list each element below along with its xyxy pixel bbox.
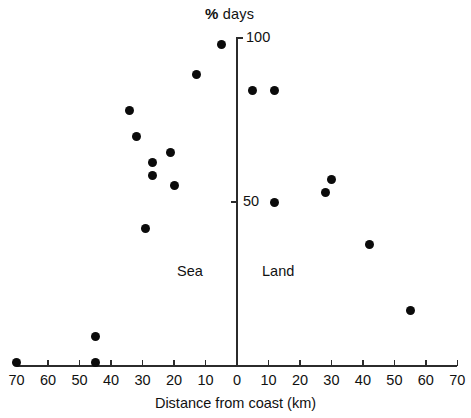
- x-tick-label: 40: [355, 372, 371, 388]
- x-tick-label: 60: [40, 372, 56, 388]
- data-point: [365, 240, 374, 249]
- data-point: [248, 86, 257, 95]
- x-tick-label: 70: [449, 372, 465, 388]
- x-tick-label: 60: [418, 372, 434, 388]
- x-tick-mark: [299, 360, 301, 366]
- data-point: [148, 171, 157, 180]
- y-tick-label-100: 100: [246, 30, 270, 45]
- x-tick-mark: [79, 360, 81, 366]
- y-tick-label-50: 50: [243, 194, 259, 209]
- scatter-chart: % days 100 50 Sea Land Distance from coa…: [0, 0, 471, 418]
- x-tick-label: 20: [166, 372, 182, 388]
- y-axis-title: % days: [205, 6, 254, 22]
- data-point: [148, 158, 157, 167]
- x-tick-label: 50: [386, 372, 402, 388]
- x-tick-label: 30: [134, 372, 150, 388]
- y-axis-title-unit: days: [223, 6, 254, 22]
- data-point: [141, 224, 150, 233]
- x-tick-label: 10: [260, 372, 276, 388]
- data-point: [327, 175, 336, 184]
- x-tick-label: 70: [9, 372, 25, 388]
- data-point: [125, 106, 134, 115]
- annotation-land: Land: [262, 264, 294, 279]
- x-tick-mark: [394, 360, 396, 366]
- data-point: [192, 70, 201, 79]
- y-tick-mark-50: [231, 201, 238, 203]
- x-tick-label: 30: [323, 372, 339, 388]
- annotation-sea: Sea: [177, 264, 203, 279]
- data-point: [270, 198, 279, 207]
- data-point: [217, 40, 226, 49]
- x-tick-mark: [425, 360, 427, 366]
- y-axis-title-percent: %: [205, 5, 219, 22]
- data-point: [321, 188, 330, 197]
- x-tick-label: 10: [197, 372, 213, 388]
- data-point: [91, 332, 100, 341]
- y-tick-mark-100: [236, 37, 243, 39]
- data-point: [406, 306, 415, 315]
- data-point: [170, 181, 179, 190]
- x-axis-title: Distance from coast (km): [0, 396, 471, 411]
- x-tick-label: 20: [292, 372, 308, 388]
- x-tick-mark: [331, 360, 333, 366]
- x-tick-mark: [110, 360, 112, 366]
- x-tick-mark: [362, 360, 364, 366]
- x-tick-mark: [205, 360, 207, 366]
- data-point: [132, 132, 141, 141]
- x-tick-mark: [268, 360, 270, 366]
- x-tick-mark: [47, 360, 49, 366]
- data-point: [91, 358, 100, 367]
- data-point: [166, 148, 175, 157]
- x-tick-label: 40: [103, 372, 119, 388]
- x-tick-mark: [142, 360, 144, 366]
- x-tick-label: 0: [233, 372, 241, 388]
- data-point: [270, 86, 279, 95]
- x-tick-mark: [173, 360, 175, 366]
- x-tick-label: 50: [72, 372, 88, 388]
- x-tick-mark: [457, 360, 459, 366]
